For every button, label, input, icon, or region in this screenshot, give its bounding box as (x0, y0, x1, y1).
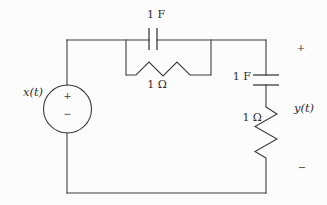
capacitor-c2-value-label: 1 F (233, 70, 251, 83)
circuit-figure: + − 1 F 1 Ω 1 F 1 Ω x(t) y(t) + − (0, 0, 327, 205)
input-signal-label: x(t) (23, 85, 43, 99)
source-minus-sign: − (64, 108, 72, 119)
output-minus-sign: − (298, 162, 306, 173)
resistor-r2-value-label: 1 Ω (242, 111, 262, 124)
capacitor-c1-symbol (149, 28, 157, 50)
circuit-diagram-canvas: + − 1 F 1 Ω 1 F 1 Ω x(t) y(t) + − (0, 0, 327, 205)
wire-group (67, 40, 266, 193)
resistor-r1-symbol (126, 62, 211, 76)
output-plus-sign: + (297, 42, 305, 53)
capacitor-c2-symbol (253, 75, 279, 85)
output-signal-label: y(t) (293, 101, 314, 115)
resistor-r1-value-label: 1 Ω (147, 78, 167, 91)
source-plus-sign: + (64, 90, 72, 101)
capacitor-c1-value-label: 1 F (147, 8, 165, 21)
